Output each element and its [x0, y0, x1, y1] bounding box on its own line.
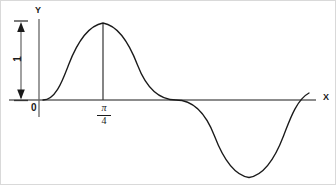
amplitude-arrowhead-down	[17, 90, 25, 100]
sine-wave-figure: Y X 0 1 π 4	[0, 0, 336, 185]
x-tick-label-pi-over-4: π 4	[97, 103, 111, 126]
pi-over-4-numerator: π	[97, 103, 111, 114]
x-axis-label: X	[323, 93, 329, 102]
pi-over-4-denominator: 4	[97, 115, 111, 127]
plot-area	[1, 1, 336, 185]
y-axis-label: Y	[35, 6, 41, 15]
amplitude-value-label: 1	[13, 56, 23, 62]
origin-label: 0	[31, 103, 37, 113]
amplitude-arrowhead-up	[17, 22, 25, 32]
